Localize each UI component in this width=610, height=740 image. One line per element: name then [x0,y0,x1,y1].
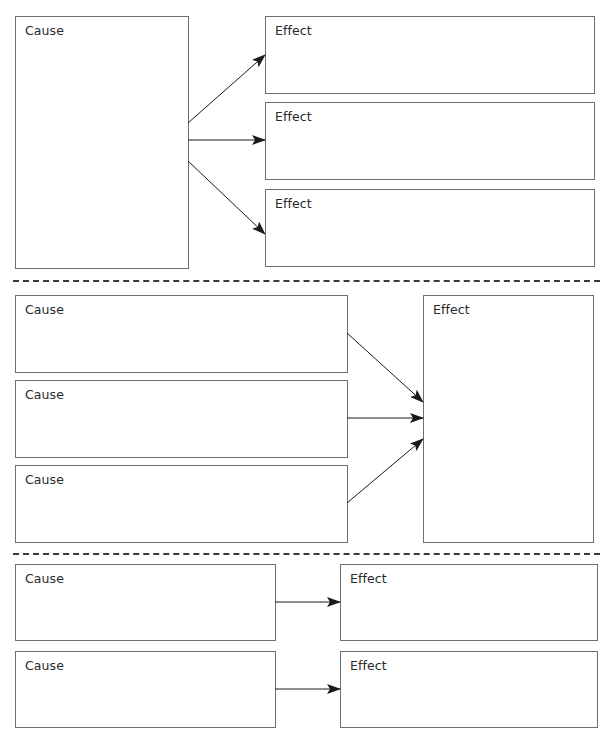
effect-label: Effect [275,196,312,211]
arrow-icon [347,439,423,503]
effect-box: Effect [340,564,598,641]
effect-label: Effect [433,302,470,317]
section-separator [13,280,600,282]
cause-box: Cause [15,295,348,373]
cause-box: Cause [15,16,189,269]
cause-box: Cause [15,651,276,728]
effect-box: Effect [265,102,595,180]
cause-label: Cause [25,472,64,487]
effect-box: Effect [265,16,595,94]
section-separator [13,553,600,555]
arrow-icon [347,333,423,402]
cause-label: Cause [25,658,64,673]
cause-label: Cause [25,387,64,402]
arrow-icon [188,55,265,123]
effect-label: Effect [275,109,312,124]
effect-box: Effect [423,295,594,543]
arrow-icon [188,161,265,234]
effect-box: Effect [340,651,598,728]
effect-label: Effect [275,23,312,38]
effect-label: Effect [350,571,387,586]
cause-label: Cause [25,302,64,317]
cause-label: Cause [25,23,64,38]
cause-box: Cause [15,465,348,543]
cause-box: Cause [15,564,276,641]
effect-box: Effect [265,189,595,267]
cause-label: Cause [25,571,64,586]
effect-label: Effect [350,658,387,673]
cause-box: Cause [15,380,348,458]
